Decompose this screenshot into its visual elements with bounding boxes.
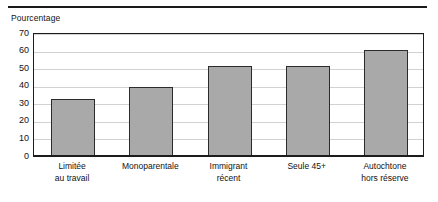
y-axis-tick-labels: 706050403020100 (0, 33, 29, 156)
top-rule-divider (8, 6, 427, 8)
x-tick-label: Seule 45+ (268, 160, 346, 172)
bar (208, 66, 252, 156)
bar (51, 99, 95, 156)
x-axis-line (33, 155, 424, 157)
gridline-70 (34, 34, 423, 35)
x-tick-label-line1: Limitée (58, 161, 85, 171)
y-tick-label-50: 50 (3, 64, 29, 73)
y-tick-label-70: 70 (3, 29, 29, 38)
y-tick-label-40: 40 (3, 81, 29, 90)
x-tick-label: Autochtonehors réserve (346, 160, 424, 184)
bar (286, 66, 330, 156)
x-tick-label: Limitéeau travail (33, 160, 111, 184)
plot-area (33, 33, 424, 156)
x-tick-label: Immigrantrécent (189, 160, 267, 184)
y-tick-label-10: 10 (3, 134, 29, 143)
y-tick-label-60: 60 (3, 46, 29, 55)
y-tick-label-20: 20 (3, 116, 29, 125)
bar (364, 50, 408, 156)
x-tick-label-line1: Monoparentale (122, 161, 179, 171)
y-axis-title: Pourcentage (11, 13, 60, 23)
x-tick-label-line2: récent (189, 172, 267, 184)
chart-figure: Pourcentage 706050403020100 Limitéeau tr… (0, 0, 438, 202)
x-tick-label-line1: Seule 45+ (287, 161, 326, 171)
x-tick-label-line1: Autochtone (363, 161, 406, 171)
bar (129, 87, 173, 156)
y-tick-label-30: 30 (3, 99, 29, 108)
x-tick-label-line1: Immigrant (210, 161, 248, 171)
y-tick-label-0: 0 (3, 152, 29, 161)
x-tick-label-line2: au travail (33, 172, 111, 184)
x-axis-tick-labels: Limitéeau travailMonoparentaleImmigrantr… (33, 160, 424, 200)
x-tick-label-line2: hors réserve (346, 172, 424, 184)
x-tick-label: Monoparentale (111, 160, 189, 172)
